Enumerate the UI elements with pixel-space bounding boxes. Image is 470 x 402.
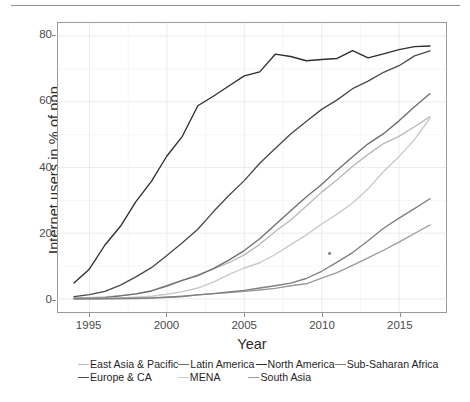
legend-swatch-line-icon	[248, 377, 259, 378]
legend-item[interactable]: Latin America	[178, 359, 254, 370]
legend-swatch-line-icon	[178, 364, 189, 365]
legend-item[interactable]: MENA	[178, 372, 221, 383]
series-line-latin-america	[74, 94, 430, 299]
y-tick-mark	[52, 300, 56, 301]
series-lines	[74, 46, 430, 299]
x-tick-mark	[89, 313, 90, 317]
legend-label: South Asia	[260, 372, 311, 383]
y-tick-label: 80	[4, 29, 52, 41]
x-tick-mark	[322, 313, 323, 317]
top-horizontal-rule	[11, 5, 460, 6]
y-tick-label: 60	[4, 95, 52, 107]
legend-row-1: East Asia & PacificLatin AmericaNorth Am…	[0, 358, 470, 371]
legend-label: Sub-Saharan Africa	[347, 359, 439, 370]
legend-label: Europe & CA	[90, 372, 152, 383]
x-tick-mark	[244, 313, 245, 317]
scan-artifact-dot	[328, 252, 331, 255]
legend-swatch-line-icon	[78, 364, 89, 365]
x-tick-label: 2000	[136, 319, 196, 331]
y-tick-mark	[52, 234, 56, 235]
y-tick-mark	[52, 168, 56, 169]
legend-swatch-line-icon	[178, 377, 189, 378]
chart-legend: East Asia & PacificLatin AmericaNorth Am…	[0, 358, 470, 384]
line-chart-figure: Internet users in % of pop. 020406080 19…	[0, 14, 470, 354]
y-tick-label: 20	[4, 228, 52, 240]
x-tick-label: 2015	[370, 319, 430, 331]
y-axis-ticks: 020406080	[0, 14, 52, 354]
y-tick-mark	[52, 101, 56, 102]
series-line-south-asia	[74, 225, 430, 299]
series-line-mena	[74, 118, 430, 299]
legend-row-2: Europe & CAMENASouth Asia	[0, 371, 470, 384]
chart-page: Internet users in % of pop. 020406080 19…	[0, 0, 470, 402]
legend-swatch-line-icon	[335, 364, 346, 365]
x-axis-title: Year	[57, 336, 447, 352]
legend-label: Latin America	[190, 359, 254, 370]
x-tick-mark	[166, 313, 167, 317]
legend-item[interactable]: South Asia	[248, 372, 311, 383]
series-line-north-america	[74, 46, 430, 283]
legend-label: East Asia & Pacific	[90, 359, 178, 370]
y-tick-label: 40	[4, 162, 52, 174]
y-tick-mark	[52, 35, 56, 36]
series-line-east-asia-pacific	[74, 117, 430, 298]
plot-svg	[58, 23, 446, 312]
x-tick-label: 2010	[292, 319, 352, 331]
x-tick-mark	[400, 313, 401, 317]
stray-marks	[328, 252, 331, 255]
x-tick-label: 2005	[214, 319, 274, 331]
legend-label: North America	[268, 359, 335, 370]
legend-item[interactable]: Europe & CA	[78, 372, 152, 383]
y-tick-label: 0	[4, 294, 52, 306]
series-line-sub-saharan-africa	[74, 199, 430, 299]
legend-swatch-line-icon	[256, 364, 267, 365]
legend-item[interactable]: North America	[256, 359, 335, 370]
x-tick-label: 1995	[59, 319, 119, 331]
legend-swatch-line-icon	[78, 377, 89, 378]
legend-label: MENA	[190, 372, 221, 383]
legend-item[interactable]: East Asia & Pacific	[78, 359, 178, 370]
legend-item[interactable]: Sub-Saharan Africa	[335, 359, 439, 370]
series-line-europe-ca	[74, 51, 430, 297]
plot-panel	[57, 22, 447, 313]
